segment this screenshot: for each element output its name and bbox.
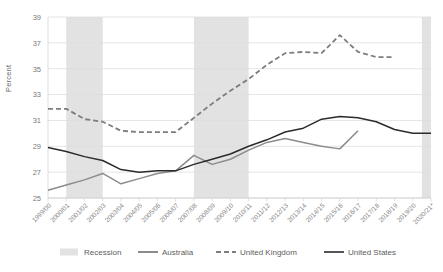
- y-tick-label: 29: [33, 142, 41, 151]
- y-tick-label: 27: [33, 168, 41, 177]
- y-tick-label: 31: [33, 116, 41, 125]
- legend: RecessionAustraliaUnited KingdomUnited S…: [60, 248, 396, 257]
- legend-label-recession: Recession: [84, 248, 121, 257]
- line-chart: 25272931333537391999/002000/012001/02200…: [0, 0, 443, 272]
- y-tick-label: 37: [33, 39, 41, 48]
- recession-band: [194, 17, 249, 198]
- y-tick-label: 25: [33, 194, 41, 203]
- recession-band: [422, 17, 431, 198]
- x-axis-labels-group: 1999/002000/012001/022002/032003/042004/…: [30, 198, 435, 225]
- legend-label-united-states: United States: [348, 248, 396, 257]
- legend-swatch-recession: [60, 249, 78, 256]
- legend-label-united-kingdom: United Kingdom: [240, 248, 297, 257]
- y-axis-label: Percent: [4, 65, 13, 92]
- recession-band: [66, 17, 102, 198]
- y-tick-label: 39: [33, 13, 41, 22]
- y-tick-label: 35: [33, 65, 41, 74]
- chart-container: Percent 25272931333537391999/002000/0120…: [0, 0, 443, 272]
- legend-label-australia: Australia: [162, 248, 194, 257]
- x-tick-label: 2010/11: [231, 202, 253, 224]
- y-tick-label: 33: [33, 90, 41, 99]
- x-tick-label: 2009/10: [213, 202, 235, 224]
